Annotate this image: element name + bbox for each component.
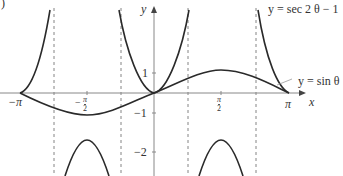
chart-plot: [0, 0, 343, 176]
tick-half-pi: π2: [217, 96, 221, 113]
tick-neg-sign: −: [75, 97, 81, 108]
tick-neg-half-pi: π2: [83, 96, 87, 113]
y-axis-label: y: [141, 2, 146, 17]
tick-ym2: −2: [134, 145, 147, 160]
sin-curve-label: y = sin θ: [298, 74, 340, 89]
x-axis-arrow-icon: [299, 90, 306, 96]
tick-neg-pi: −π: [8, 95, 22, 110]
y-axis-arrow-icon: [151, 6, 157, 13]
corner-label: ): [1, 0, 5, 11]
tick-pi: π: [285, 97, 291, 112]
sec-curve-label: y = sec 2 θ − 1: [268, 2, 339, 17]
x-axis-label: x: [309, 95, 314, 110]
tick-ym1: −1: [134, 106, 147, 121]
tick-y1: 1: [142, 66, 148, 81]
